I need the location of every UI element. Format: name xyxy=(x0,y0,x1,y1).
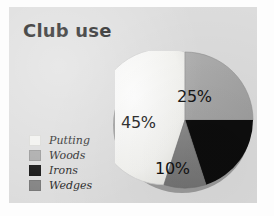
legend-swatch-woods xyxy=(29,150,41,161)
legend-swatch-irons xyxy=(29,165,41,176)
pie-chart: 25% 45% 10% xyxy=(111,49,257,197)
pie-label-woods: 25% xyxy=(177,87,212,106)
legend-item-irons: Irons xyxy=(29,163,92,178)
legend-label-wedges: Wedges xyxy=(49,180,92,191)
chart-panel: Club use xyxy=(9,7,257,203)
legend-item-woods: Woods xyxy=(29,148,92,163)
legend-label-irons: Irons xyxy=(49,165,78,176)
legend-swatch-wedges xyxy=(29,180,41,191)
legend-label-putting: Putting xyxy=(49,135,90,146)
pie-label-wedges: 10% xyxy=(155,159,190,178)
pie-label-putting: 45% xyxy=(121,113,156,132)
pie-slice-woods xyxy=(185,52,253,120)
legend-label-woods: Woods xyxy=(49,150,86,161)
legend-swatch-putting xyxy=(29,135,41,146)
chart-title: Club use xyxy=(23,20,112,41)
legend-item-wedges: Wedges xyxy=(29,178,92,193)
chart-figure: Club use xyxy=(0,0,274,216)
legend-item-putting: Putting xyxy=(29,133,92,148)
chart-legend: Putting Woods Irons Wedges xyxy=(29,133,92,193)
